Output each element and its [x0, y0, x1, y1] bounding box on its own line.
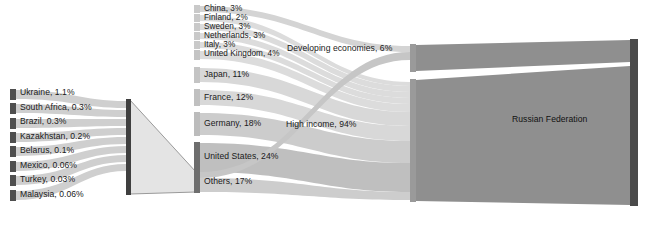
sankey-diagram: Ukraine, 1.1% South Africa, 0.3% Brazil,…	[0, 0, 646, 225]
label-italy: Italy, 3%	[204, 41, 235, 49]
node-russian-federation	[630, 39, 638, 206]
label-russian-federation: Russian Federation	[512, 115, 587, 124]
nodes-destination-total	[630, 39, 638, 206]
label-china: China, 3%	[204, 5, 242, 13]
label-others: Others, 17%	[204, 177, 252, 186]
label-turkey: Turkey, 0.03%	[20, 175, 75, 184]
label-united-states: United States, 24%	[204, 152, 278, 161]
label-japan: Japan, 11%	[204, 70, 249, 79]
node-developing-economies	[410, 44, 416, 72]
label-malaysia: Malaysia, 0.06%	[20, 190, 84, 199]
links-aggregator-to-others	[130, 100, 196, 194]
node-germany	[194, 112, 200, 136]
node-france	[194, 89, 200, 106]
link-aggregate-others	[130, 100, 196, 194]
nodes-destination-countries	[194, 5, 200, 193]
sankey-canvas	[0, 0, 646, 225]
node-ukraine	[10, 89, 16, 100]
label-finland: Finland, 2%	[204, 14, 248, 22]
label-high-income: High income, 94%	[286, 120, 357, 129]
node-netherlands	[194, 32, 200, 40]
node-aggregate	[126, 99, 131, 195]
label-germany: Germany, 18%	[204, 119, 261, 128]
label-france: France, 12%	[204, 93, 253, 102]
nodes-aggregator	[126, 99, 131, 195]
node-others	[194, 171, 200, 193]
link-developing-russia	[416, 40, 630, 71]
label-south-africa: South Africa, 0.3%	[20, 103, 92, 112]
node-united-kingdom	[194, 50, 200, 60]
label-ukraine: Ukraine, 1.1%	[20, 88, 75, 97]
label-mexico: Mexico, 0.06%	[20, 161, 77, 170]
node-turkey	[10, 175, 16, 186]
label-united-kingdom: United Kingdom, 4%	[204, 50, 280, 58]
node-brazil	[10, 118, 16, 129]
label-netherlands: Netherlands, 3%	[204, 32, 265, 40]
node-china	[194, 5, 200, 13]
node-high-income	[410, 79, 416, 202]
node-malaysia	[10, 190, 16, 201]
node-belarus	[10, 146, 16, 157]
node-japan	[194, 67, 200, 83]
label-belarus: Belarus, 0.1%	[20, 146, 74, 155]
node-united-states	[194, 142, 200, 173]
node-mexico	[10, 161, 16, 172]
label-brazil: Brazil, 0.3%	[20, 117, 66, 126]
node-finland	[194, 14, 200, 22]
node-kazakhstan	[10, 132, 16, 143]
link-high-income-russia	[416, 66, 630, 205]
node-italy	[194, 41, 200, 49]
node-south-africa	[10, 103, 16, 114]
label-sweden: Sweden, 3%	[204, 23, 250, 31]
label-developing-economies: Developing economies, 6%	[287, 44, 392, 53]
nodes-income-groups	[410, 44, 416, 202]
node-sweden	[194, 23, 200, 31]
label-kazakhstan: Kazakhstan, 0.2%	[20, 132, 90, 141]
nodes-origin-countries	[10, 89, 16, 201]
